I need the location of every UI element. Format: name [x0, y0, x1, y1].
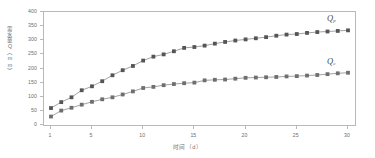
- data-point-marker: [192, 45, 196, 49]
- x-tick-mark: [91, 126, 92, 129]
- data-point-marker: [182, 81, 186, 85]
- data-point-marker: [244, 38, 248, 42]
- x-tick-mark: [245, 126, 246, 129]
- data-point-marker: [264, 35, 268, 39]
- data-point-marker: [274, 75, 278, 79]
- data-point-marker: [315, 30, 319, 34]
- x-tick-label: 1: [49, 132, 52, 138]
- x-tick-mark: [296, 126, 297, 129]
- x-axis-title: 时间（d）: [0, 143, 375, 151]
- series-line: [51, 30, 348, 108]
- data-point-marker: [59, 100, 63, 104]
- data-point-marker: [254, 76, 258, 80]
- data-point-marker: [100, 79, 104, 83]
- data-point-marker: [295, 74, 299, 78]
- y-tick-label: 100: [28, 93, 37, 99]
- data-point-marker: [326, 30, 330, 34]
- x-tick-mark: [347, 126, 348, 129]
- y-tick-label: 300: [28, 36, 37, 42]
- data-point-marker: [346, 28, 350, 32]
- data-point-marker: [305, 74, 309, 78]
- x-tick-label: 25: [293, 132, 299, 138]
- x-tick-label: 30: [344, 132, 350, 138]
- series-qp: [49, 28, 350, 109]
- data-point-marker: [100, 97, 104, 101]
- y-axis-tick-labels: 050100150200250300350400: [0, 0, 43, 135]
- plot-svg: [44, 12, 355, 125]
- x-tick-label: 20: [242, 132, 248, 138]
- data-point-marker: [223, 78, 227, 82]
- data-point-marker: [152, 85, 156, 89]
- data-point-marker: [152, 55, 156, 59]
- data-point-marker: [295, 32, 299, 36]
- data-point-marker: [305, 31, 309, 35]
- data-point-marker: [172, 82, 176, 86]
- data-point-marker: [172, 49, 176, 53]
- data-point-marker: [326, 72, 330, 76]
- chart-figure: 需水量Q（mm） 050100150200250300350400 Qp Qc …: [0, 0, 375, 158]
- series-label-qp: Qp: [327, 13, 336, 23]
- y-tick-label: 250: [28, 50, 37, 56]
- data-point-marker: [70, 106, 74, 110]
- series-label-qc: Qc: [327, 56, 335, 66]
- series-qc: [49, 71, 350, 119]
- y-tick-label: 200: [28, 65, 37, 71]
- y-tick-label: 0: [34, 121, 37, 127]
- y-tick-label: 350: [28, 22, 37, 28]
- data-point-marker: [285, 75, 289, 79]
- data-point-marker: [111, 95, 115, 99]
- data-point-marker: [233, 39, 237, 43]
- x-tick-label: 5: [89, 132, 92, 138]
- series-label-subscript: c: [333, 61, 335, 66]
- data-point-marker: [121, 93, 125, 97]
- data-point-marker: [336, 71, 340, 75]
- data-point-marker: [141, 86, 145, 90]
- data-point-marker: [264, 75, 268, 79]
- data-point-marker: [70, 95, 74, 99]
- data-point-marker: [80, 103, 84, 107]
- x-tick-mark: [50, 126, 51, 129]
- x-tick-label: 15: [190, 132, 196, 138]
- data-point-marker: [182, 46, 186, 50]
- x-tick-mark: [193, 126, 194, 129]
- series-line: [51, 73, 348, 117]
- y-tick-label: 50: [31, 107, 37, 113]
- data-point-marker: [59, 109, 63, 113]
- data-point-marker: [141, 59, 145, 63]
- plot-area: [43, 11, 356, 126]
- data-point-marker: [111, 73, 115, 77]
- data-point-marker: [346, 71, 350, 75]
- data-point-marker: [192, 81, 196, 85]
- data-point-marker: [274, 34, 278, 38]
- data-point-marker: [244, 76, 248, 80]
- data-point-marker: [213, 78, 217, 82]
- data-point-marker: [162, 83, 166, 87]
- data-point-marker: [131, 89, 135, 93]
- data-point-marker: [121, 68, 125, 72]
- data-point-marker: [49, 115, 53, 119]
- series-layer: [49, 28, 350, 118]
- x-tick-mark: [142, 126, 143, 129]
- data-point-marker: [213, 42, 217, 46]
- data-point-marker: [223, 40, 227, 44]
- x-tick-label: 10: [139, 132, 145, 138]
- data-point-marker: [49, 106, 53, 110]
- data-point-marker: [80, 88, 84, 92]
- data-point-marker: [90, 84, 94, 88]
- data-point-marker: [315, 73, 319, 77]
- data-point-marker: [203, 44, 207, 48]
- data-point-marker: [233, 77, 237, 81]
- data-point-marker: [336, 29, 340, 33]
- x-axis-tick-labels: 151015202530: [43, 126, 356, 140]
- data-point-marker: [254, 36, 258, 40]
- data-point-marker: [203, 78, 207, 82]
- y-tick-label: 400: [28, 8, 37, 14]
- data-point-marker: [285, 33, 289, 37]
- series-label-subscript: p: [333, 18, 336, 23]
- y-tick-label: 150: [28, 79, 37, 85]
- data-point-marker: [162, 52, 166, 56]
- data-point-marker: [90, 100, 94, 104]
- data-point-marker: [131, 64, 135, 68]
